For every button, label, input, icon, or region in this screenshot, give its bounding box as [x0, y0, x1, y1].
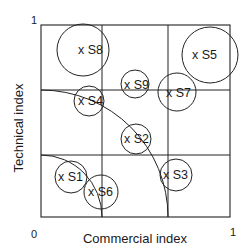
- label-s8: x S8: [78, 43, 103, 57]
- label-s1: x S1: [58, 170, 83, 184]
- label-s2: x S2: [124, 132, 149, 146]
- label-s7: x S7: [166, 86, 191, 100]
- label-s9: x S9: [124, 78, 149, 92]
- y-max-label: 1: [31, 14, 37, 26]
- portfolio-diagram: x S8 x S5 x S9 x S7 x S4 x S2 x S1 x S6 …: [0, 0, 250, 251]
- y-axis-title: Technical index: [11, 83, 26, 172]
- x-max-label: 1: [230, 226, 236, 238]
- label-s6: x S6: [88, 185, 113, 199]
- origin-label: 0: [31, 228, 37, 240]
- label-s3: x S3: [163, 168, 188, 182]
- label-s5: x S5: [192, 48, 217, 62]
- label-s4: x S4: [78, 94, 103, 108]
- x-axis-title: Commercial index: [83, 231, 188, 246]
